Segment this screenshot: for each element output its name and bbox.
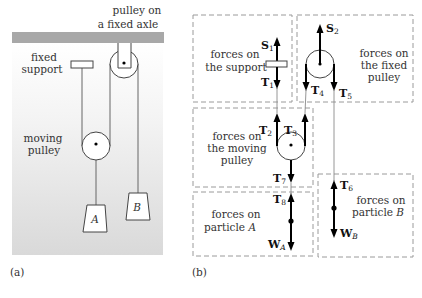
label-WA: WA	[267, 238, 286, 252]
force-T6-arrowhead	[331, 180, 338, 189]
fixed-pulley-box-label-line2: the fixed	[361, 59, 408, 71]
fixed-pulley-axle	[122, 61, 125, 64]
fixed-support-label-line1: fixed	[31, 51, 57, 63]
force-T7-arrowhead	[288, 174, 295, 183]
particle-a-box-label-line1: forces on	[211, 208, 260, 220]
label-S2: S2	[326, 22, 339, 36]
particle-a-point	[288, 218, 293, 223]
force-T1-arrowhead	[274, 80, 281, 89]
force-WB-arrowhead	[331, 229, 338, 238]
particle-a-box-label-line2: particle A	[204, 221, 256, 233]
label-T3: T3	[284, 124, 297, 138]
particle-b-box-label-line2: particle B	[352, 206, 404, 218]
block-a-label: A	[90, 213, 99, 225]
support-box-label-line1: forces on	[210, 48, 259, 60]
fixed-support-label-line2: support	[21, 63, 63, 75]
fixed-axle-label-line1: pulley on	[113, 4, 162, 16]
rope-segment-fixed-moving	[305, 90, 306, 113]
panel-a-caption: (a)	[10, 266, 24, 278]
support-box-label-line2: the support	[205, 61, 267, 73]
fixed-axle-label-line2: a fixed axle	[98, 18, 159, 30]
moving-pulley-label-line2: pulley	[28, 144, 60, 156]
force-T4-arrowhead	[303, 82, 310, 91]
pulley-system-figure: pulley on a fixed axle fixed support mov…	[0, 0, 422, 298]
moving-pulley	[82, 132, 110, 160]
label-T7: T7	[273, 172, 286, 186]
moving-pulley-box-label-line1: forces on	[212, 130, 261, 142]
force-S2-arrowhead	[317, 24, 324, 33]
moving-pulley-box-label-line2: the moving	[207, 142, 267, 154]
force-T3-arrowhead	[302, 113, 309, 122]
moving-pulley-axle	[94, 142, 97, 145]
ceiling	[12, 32, 164, 43]
force-WA-arrowhead	[288, 242, 295, 251]
force-T2-arrowhead	[274, 113, 281, 122]
fixed-pulley-fbd-axle	[318, 62, 321, 65]
label-T5: T5	[339, 87, 352, 101]
support-block	[266, 61, 287, 67]
label-T4: T4	[311, 84, 324, 98]
force-T5-arrowhead	[331, 82, 338, 91]
moving-pulley-box-label-line3: pulley	[221, 154, 253, 166]
block-b-label: B	[132, 201, 141, 213]
particle-b-point	[331, 205, 336, 210]
fixed-support	[71, 61, 93, 68]
label-WB: WB	[339, 227, 358, 241]
label-S1: S1	[261, 39, 274, 53]
moving-pulley-label-line1: moving	[23, 132, 62, 144]
label-T8: T8	[273, 193, 286, 207]
panel-b-caption: (b)	[192, 266, 207, 278]
label-T1: T1	[261, 76, 274, 90]
fixed-pulley-box-label-line3: pulley	[368, 71, 400, 83]
label-T2: T2	[259, 124, 272, 138]
particle-b-box-label-line1: forces on	[356, 194, 405, 206]
force-S1-arrowhead	[274, 37, 281, 46]
panel-b: forces on the support S1 T1 S2 T4 T5 for…	[192, 15, 413, 278]
moving-pulley-fbd-axle	[289, 143, 292, 146]
label-T6: T6	[340, 179, 353, 193]
force-T8-arrowhead	[288, 193, 295, 202]
panel-a: pulley on a fixed axle fixed support mov…	[10, 4, 164, 278]
fixed-pulley-box-label-line1: forces on	[359, 47, 408, 59]
